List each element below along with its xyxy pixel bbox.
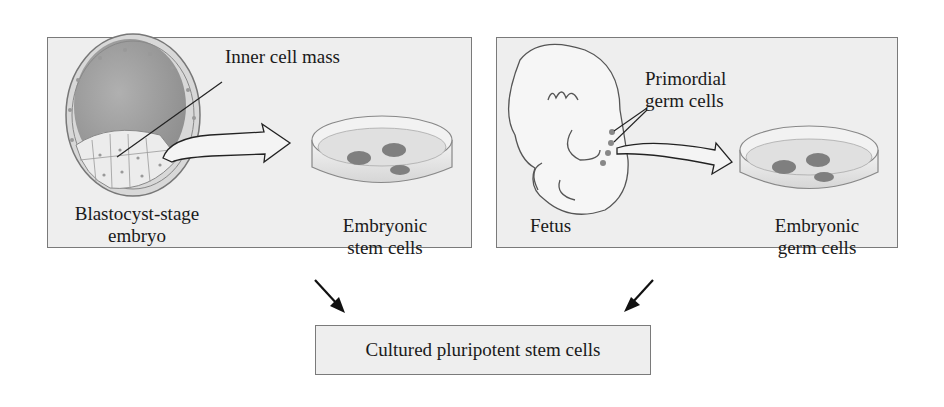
fetus-icon [509, 44, 629, 214]
embryonic-germ-cells-label: Embryonic germ cells [752, 215, 882, 259]
blastocyst-label: Blastocyst-stage embryo [62, 203, 212, 247]
petri-dish-icon [740, 126, 878, 189]
arrow-down-right-icon [315, 280, 345, 313]
result-label: Cultured pluripotent stem cells [366, 339, 601, 361]
arrow-down-left-icon [624, 280, 653, 312]
embryonic-stem-cells-label: Embryonic stem cells [320, 215, 450, 259]
petri-dish-icon [312, 116, 452, 183]
blastocyst-icon [66, 34, 200, 196]
inner-cell-mass-label: Inner cell mass [225, 46, 340, 68]
cultured-pluripotent-stem-cells-box: Cultured pluripotent stem cells [315, 325, 651, 375]
transfer-arrow-icon [617, 143, 732, 174]
fetus-label: Fetus [530, 215, 571, 237]
primordial-germ-cells-label: Primordial germ cells [645, 68, 726, 112]
